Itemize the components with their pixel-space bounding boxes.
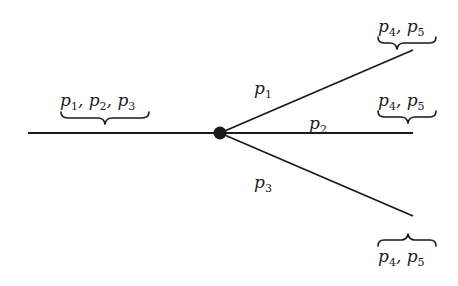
branching-path-diagram: p1, p2, p3 p1 p2 p3 p4, p5 p4, p5 p4, p5 bbox=[0, 0, 458, 286]
svg-text:p4, p5: p4, p5 bbox=[378, 90, 425, 113]
branch-middle-label: p2 bbox=[309, 113, 327, 136]
branch-middle-end-label: p4, p5 bbox=[378, 90, 436, 123]
overbrace-lower bbox=[378, 234, 436, 246]
branch-upper-end-label: p4, p5 bbox=[378, 16, 436, 49]
branch-lower-edge bbox=[220, 133, 413, 216]
svg-text:p4, p5: p4, p5 bbox=[378, 246, 425, 269]
branch-lower-label: p3 bbox=[254, 172, 272, 195]
underbrace-upper bbox=[378, 37, 436, 49]
svg-text:p1, p2, p3: p1, p2, p3 bbox=[60, 90, 135, 113]
underbrace-incoming bbox=[61, 112, 149, 124]
branch-upper-label: p1 bbox=[254, 78, 272, 101]
junction-node bbox=[214, 127, 227, 140]
svg-text:p4, p5: p4, p5 bbox=[378, 16, 425, 39]
underbrace-middle bbox=[378, 111, 436, 123]
branch-lower-end-label: p4, p5 bbox=[378, 234, 436, 269]
incoming-label: p1, p2, p3 bbox=[60, 90, 149, 124]
